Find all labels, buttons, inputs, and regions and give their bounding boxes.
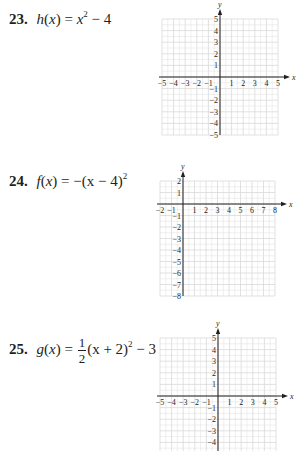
x-tick-label: 1 — [228, 398, 232, 407]
y-tick-label: 5 — [212, 334, 216, 343]
x-tick-label: −5 — [156, 398, 165, 407]
x-tick-label: −2 — [191, 398, 200, 407]
y-tick-label: 4 — [212, 346, 216, 355]
y-axis-arrow-icon — [216, 328, 220, 334]
problem-25: 25. g(x) = 12(x + 2)2 − 3 xy−5−4−3−2−112… — [0, 0, 302, 451]
y-tick-label: −4 — [207, 438, 216, 447]
y-tick-label: 2 — [212, 369, 216, 378]
x-axis-arrow-icon — [282, 394, 288, 398]
x-tick-label: −3 — [179, 398, 188, 407]
y-axis-label: y — [215, 319, 220, 328]
x-tick-label: −4 — [167, 398, 176, 407]
x-tick-label: 2 — [239, 398, 243, 407]
x-tick-label: 3 — [251, 398, 255, 407]
y-tick-label: −3 — [207, 427, 216, 436]
x-tick-label: 4 — [262, 398, 266, 407]
y-tick-label: 3 — [212, 357, 216, 366]
x-axis-label: x — [289, 392, 294, 401]
y-tick-label: −1 — [207, 404, 216, 413]
y-tick-label: 1 — [212, 380, 216, 389]
x-tick-label: 5 — [274, 398, 278, 407]
y-tick-label: −2 — [207, 415, 216, 424]
